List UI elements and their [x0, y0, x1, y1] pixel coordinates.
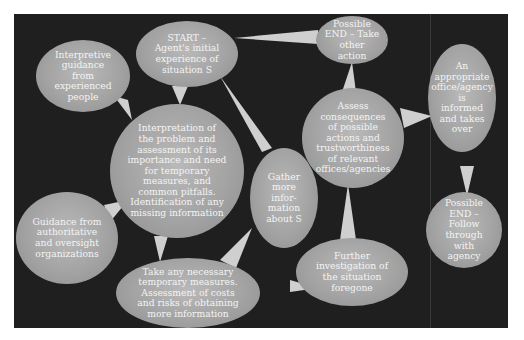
- node-guidance-authoritative-label: Guidance from authoritative and oversigh…: [32, 217, 101, 259]
- node-take-measures: Take any necessary temporary measures. A…: [116, 258, 260, 328]
- node-end-other-action: Possible END – Take other action: [316, 16, 388, 64]
- connector-assess-to-office: [400, 108, 432, 128]
- node-interpretation-label: Interpretation of the problem and assess…: [128, 123, 227, 218]
- node-gather-info-label: Gather more infor- mation about S: [266, 172, 302, 225]
- node-further-investigation-label: Further investigation of the situation f…: [316, 251, 388, 293]
- node-office-informed: An appropriate office/agency is informed…: [428, 44, 496, 152]
- node-office-informed-label: An appropriate office/agency is informed…: [431, 61, 493, 135]
- node-further-investigation: Further investigation of the situation f…: [296, 238, 408, 306]
- node-gather-info: Gather more infor- mation about S: [250, 148, 318, 248]
- node-interpretive-guidance: Interpretive guidance from experienced p…: [36, 40, 130, 112]
- connector-interpretation-to-measures: [154, 236, 168, 262]
- node-assess-consequences-label: Assess consequences of possible actions …: [316, 101, 390, 175]
- node-take-measures-label: Take any necessary temporary measures. A…: [137, 267, 238, 320]
- node-end-other-action-label: Possible END – Take other action: [325, 19, 379, 61]
- node-end-follow-through: Possible END – Follow through with agenc…: [426, 192, 502, 268]
- node-end-follow-through-label: Possible END – Follow through with agenc…: [445, 198, 483, 262]
- connector-start-to-interpretation: [172, 86, 188, 105]
- node-assess-consequences: Assess consequences of possible actions …: [302, 88, 404, 188]
- connector-further-to-assess: [340, 184, 356, 240]
- node-start-label: START – Agent's initial experience of si…: [155, 33, 220, 75]
- node-start: START – Agent's initial experience of si…: [136, 21, 238, 87]
- connector-end-to-start: [234, 30, 318, 44]
- node-interpretive-guidance-label: Interpretive guidance from experienced p…: [54, 50, 111, 103]
- node-guidance-authoritative: Guidance from authoritative and oversigh…: [16, 192, 118, 284]
- node-interpretation: Interpretation of the problem and assess…: [110, 104, 244, 238]
- diagram-canvas: START – Agent's initial experience of si…: [0, 0, 524, 340]
